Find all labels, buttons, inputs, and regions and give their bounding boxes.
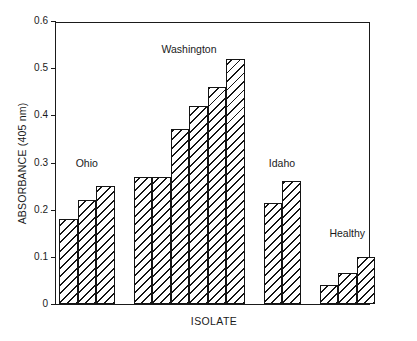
y-tick-label: 0.4 [34,110,48,120]
bar [226,59,245,304]
bar [134,177,153,304]
bar [189,106,208,304]
y-tick-label: 0.6 [34,16,48,26]
bar-series [56,23,369,304]
y-tick-mark [51,304,56,305]
group-label: Washington [161,44,216,55]
group-label: Idaho [269,158,295,169]
y-tick-label: 0 [42,299,48,309]
bar [59,219,78,304]
bar [208,87,227,304]
bar [152,177,171,304]
chart-figure: ABSORBANCE (405 nm) 00.10.20.30.40.50.6 … [0,0,417,341]
bar [96,186,115,304]
bar [264,203,283,304]
y-axis-label: ABSORBANCE (405 nm) [14,22,30,305]
bar [357,257,376,304]
plot-area: 00.10.20.30.40.50.6 OhioWashingtonIdahoH… [55,22,370,305]
y-tick-label: 0.2 [34,205,48,215]
bar [338,273,357,304]
group-label: Healthy [329,228,365,239]
bar [78,200,97,304]
y-tick-label: 0.1 [34,252,48,262]
y-tick-mark [51,21,56,22]
bar [320,285,339,304]
y-tick-label: 0.3 [34,158,48,168]
bar [171,129,190,304]
group-label: Ohio [76,158,98,169]
x-axis-label: ISOLATE [58,315,370,327]
bar [282,181,301,304]
y-tick-label: 0.5 [34,63,48,73]
